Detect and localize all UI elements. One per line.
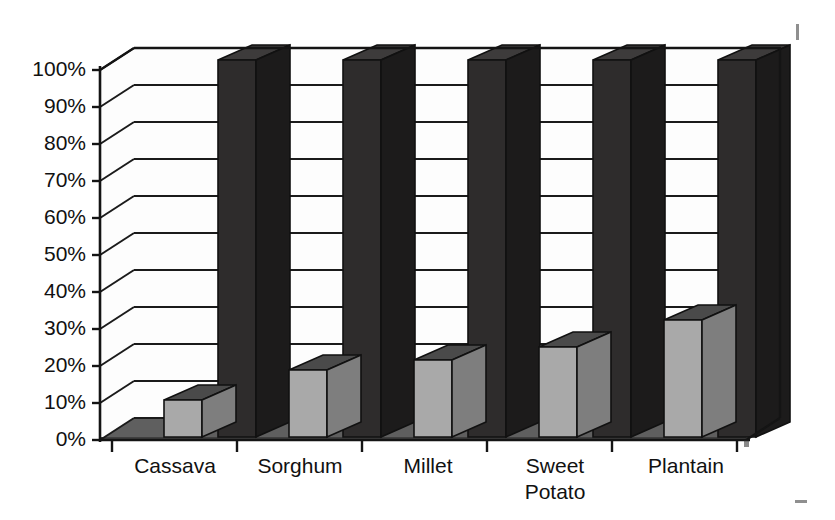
bar-light-plantain[interactable] (664, 305, 736, 437)
category-label-millet: Millet (403, 454, 452, 477)
ytick-label-90: 90% (44, 94, 86, 117)
category-label-sorghum: Sorghum (257, 454, 342, 477)
category-label-sweet-potato-line2: Potato (525, 480, 586, 503)
category-label-sweet-potato-line1: Sweet (526, 454, 585, 477)
ytick-label-100: 100% (32, 57, 86, 80)
ytick-label-70: 70% (44, 168, 86, 191)
ytick-label-50: 50% (44, 242, 86, 265)
bar-light-millet[interactable] (414, 345, 486, 437)
x-axis-ticks (112, 440, 737, 452)
ytick-label-80: 80% (44, 131, 86, 154)
scan-dash-mark-icon (795, 500, 807, 503)
bar-light-sorghum[interactable] (289, 355, 361, 437)
scan-dot-mark-icon (744, 440, 749, 447)
category-label-plantain: Plantain (648, 454, 724, 477)
bar-light-sweet-potato[interactable] (539, 332, 611, 437)
ytick-label-30: 30% (44, 316, 86, 339)
ytick-label-60: 60% (44, 205, 86, 228)
x-axis-category-labels: Cassava Sorghum Millet Sweet Potato Plan… (134, 454, 724, 503)
ytick-label-20: 20% (44, 353, 86, 376)
ytick-label-0: 0% (56, 427, 86, 450)
y-axis-tick-labels: 100% 90% 80% 70% 60% 50% 40% 30% 20% 10%… (32, 57, 86, 450)
bar-chart-3d: 100% 90% 80% 70% 60% 50% 40% 30% 20% 10%… (0, 0, 835, 520)
chart-container: 100% 90% 80% 70% 60% 50% 40% 30% 20% 10%… (0, 0, 835, 520)
category-label-cassava: Cassava (134, 454, 216, 477)
scan-tick-mark-icon (796, 24, 799, 40)
ytick-label-10: 10% (44, 390, 86, 413)
bar-dark-cassava[interactable] (218, 45, 290, 437)
ytick-label-40: 40% (44, 279, 86, 302)
